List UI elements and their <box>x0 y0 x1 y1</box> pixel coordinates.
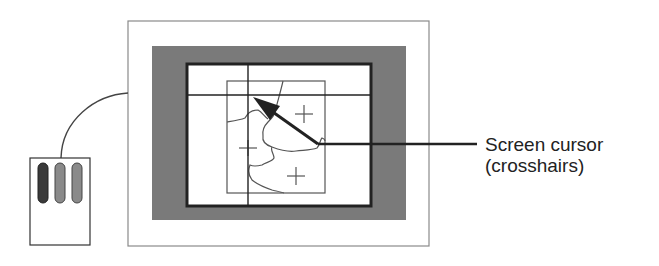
display-screen <box>187 64 371 206</box>
screen-cursor-label: Screen cursor (crosshairs) <box>485 134 603 176</box>
mouse-device <box>30 158 90 245</box>
callout-line-2: (crosshairs) <box>485 155 603 176</box>
callout-line-1: Screen cursor <box>485 134 603 155</box>
mouse-button-middle <box>55 163 65 203</box>
mouse-button-left <box>38 163 48 203</box>
mouse-button-right <box>72 163 82 203</box>
mouse-cable <box>61 93 128 158</box>
diagram-canvas <box>0 0 659 266</box>
